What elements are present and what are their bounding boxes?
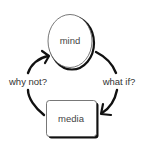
media-node: media	[47, 101, 99, 139]
media-label: media	[58, 113, 85, 124]
what-if-label: what if?	[102, 76, 136, 87]
mind-label: mind	[60, 35, 81, 46]
why-not-label: why not?	[8, 76, 47, 87]
mind-node: mind	[48, 15, 94, 70]
cycle-diagram: mind media why not? what if?	[0, 0, 147, 153]
